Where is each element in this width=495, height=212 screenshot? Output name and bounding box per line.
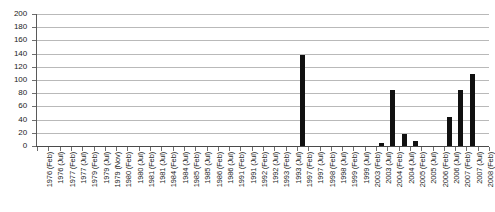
x-tick-label: 2003 (Feb) [374,152,382,187]
x-tick-label: 1997 (Feb) [306,152,314,187]
bar-slot [320,14,331,146]
bar-slot [399,14,410,146]
x-tick-label: 1980 (Feb) [125,152,133,187]
y-tick-label: 200 [14,10,27,18]
x-tick-mark [444,147,445,151]
x-tick-label: 1979 (Nov) [114,152,122,188]
x-tick-label: 1985 (Feb) [193,152,201,187]
x-tick-mark [342,147,343,151]
bar-slot [116,14,127,146]
bar-slot [410,14,421,146]
x-tick-label: 1980 (Jul) [137,152,145,184]
bar-slot [184,14,195,146]
bar-slot [433,14,444,146]
x-tick-label: 1986 (Feb) [216,152,224,187]
bar[interactable] [470,74,475,146]
bar-slot [376,14,387,146]
bar-slot [342,14,353,146]
bar[interactable] [300,55,305,146]
x-tick-mark [399,147,400,151]
y-tick-label: 40 [18,116,27,124]
x-tick-mark [308,147,309,151]
x-tick-label: 1991 (Jul) [250,152,258,184]
x-tick-mark [274,147,275,151]
x-tick-mark [466,147,467,151]
x-tick-label: 1993 (Feb) [283,152,291,187]
x-tick-mark [252,147,253,151]
x-tick-label: 1977 (Feb) [69,152,77,187]
bar-slot [365,14,376,146]
bars-layer [37,14,489,146]
x-tick-label: 1998 (Jul) [340,152,348,184]
x-tick-mark [116,147,117,151]
x-tick-mark [48,147,49,151]
bar-slot [387,14,398,146]
x-tick-mark [263,147,264,151]
y-tick-label: 80 [18,89,27,97]
bar[interactable] [447,117,452,146]
x-tick-label: 1991 (Feb) [238,152,246,187]
x-tick-mark [286,147,287,151]
bar-slot [444,14,455,146]
x-tick-label: 1992 (Feb) [261,152,269,187]
bar-slot [274,14,285,146]
x-tick-label: 2007 (Feb) [464,152,472,187]
x-tick-mark [240,147,241,151]
bar-slot [173,14,184,146]
x-tick-mark [127,147,128,151]
x-tick-mark [184,147,185,151]
x-tick-mark [376,147,377,151]
x-tick-label: 1981 (Feb) [148,152,156,187]
x-tick-label: 1976 (Feb) [46,152,54,187]
y-axis: 200180160140120100806040200 [0,0,32,212]
x-axis-labels: 1976 (Feb)1976 (Jul)1977 (Feb)1977 (Jul)… [37,152,489,212]
x-tick-mark [489,147,490,151]
x-tick-mark [365,147,366,151]
y-tick-label: 60 [18,102,27,110]
x-tick-label: 2003 (Jul) [385,152,393,184]
x-tick-mark [37,147,38,151]
y-tick-label: 0 [23,142,27,150]
bar-slot [466,14,477,146]
bar-slot [37,14,48,146]
y-tick-label: 120 [14,63,27,71]
x-tick-mark [139,147,140,151]
x-tick-label: 1977 (Jul) [80,152,88,184]
x-tick-mark [218,147,219,151]
y-tick-label: 180 [14,23,27,31]
bar[interactable] [390,90,395,146]
bar-slot [353,14,364,146]
x-tick-label: 1992 (Jul) [272,152,280,184]
y-tick-label: 100 [14,76,27,84]
bar-slot [263,14,274,146]
x-tick-mark [410,147,411,151]
x-tick-mark [105,147,106,151]
x-tick-label: 2006 (Jul) [453,152,461,184]
bar-slot [286,14,297,146]
bar-slot [60,14,71,146]
x-tick-mark [455,147,456,151]
bar[interactable] [458,90,463,146]
x-tick-mark [478,147,479,151]
x-tick-mark [161,147,162,151]
bar-slot [94,14,105,146]
bar-slot [195,14,206,146]
x-tick-label: 1976 (Jul) [57,152,65,184]
x-tick-label: 1986 (Jul) [227,152,235,184]
x-tick-label: 2004 (Feb) [396,152,404,187]
x-tick-mark [229,147,230,151]
bar[interactable] [402,134,407,146]
x-tick-label: 2005 (Jul) [430,152,438,184]
bar-slot [161,14,172,146]
bar-slot [139,14,150,146]
x-tick-label: 1993 (Jul) [295,152,303,184]
bar-slot [240,14,251,146]
bar-slot [229,14,240,146]
x-tick-mark [94,147,95,151]
x-tick-label: 1997 (Jul) [317,152,325,184]
y-tick-label: 140 [14,50,27,58]
x-tick-label: 1981 (Jul) [159,152,167,184]
bar-slot [105,14,116,146]
x-tick-mark [320,147,321,151]
bar-slot [207,14,218,146]
